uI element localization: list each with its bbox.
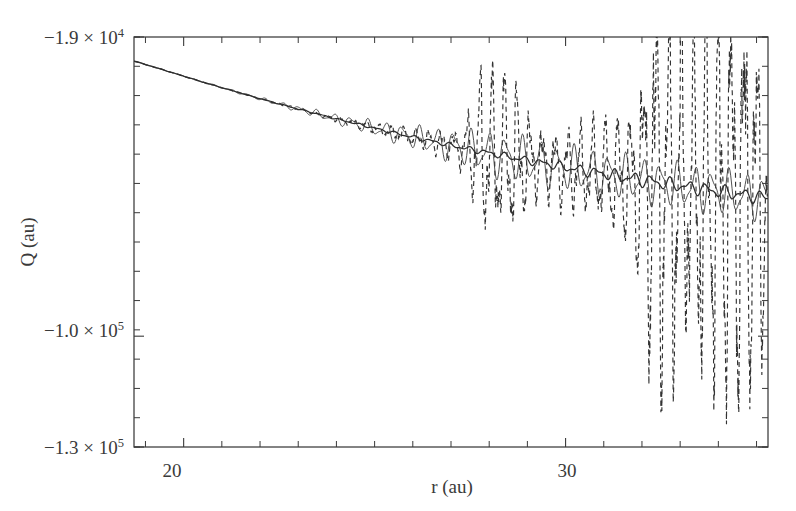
x-tick-labels: 20 30 xyxy=(163,460,577,481)
y-tick-label-1: −1.0 × 105 xyxy=(44,319,124,341)
x-tick-label-30: 30 xyxy=(558,460,577,481)
noisy-dashed-series xyxy=(134,26,768,424)
y-tick-label-2: −1.3 × 105 xyxy=(44,436,124,458)
y-axis-title: Q (au) xyxy=(17,217,39,266)
y-tick-label-0: −1.9 × 104 xyxy=(44,26,125,48)
figure-container: −1.9 × 104 −1.0 × 105 −1.3 × 105 20 30 r… xyxy=(0,0,796,511)
y-tick-labels: −1.9 × 104 −1.0 × 105 −1.3 × 105 xyxy=(44,26,125,458)
smooth-trend-series xyxy=(134,61,768,204)
plot-svg: −1.9 × 104 −1.0 × 105 −1.3 × 105 20 30 r… xyxy=(0,0,796,511)
x-axis-title: r (au) xyxy=(431,476,473,498)
x-tick-label-20: 20 xyxy=(163,460,182,481)
data-region xyxy=(134,26,768,424)
